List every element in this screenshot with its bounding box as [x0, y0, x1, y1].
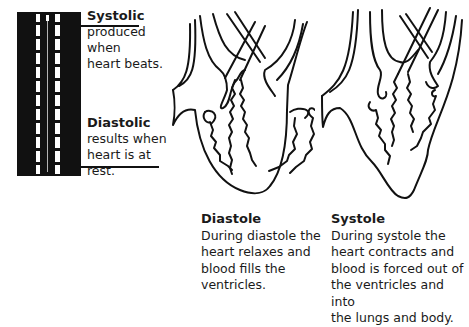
diastole-title: Diastole: [201, 211, 326, 228]
systole-line-5: the lungs and body.: [331, 310, 469, 327]
systolic-line-1: produced when: [87, 24, 172, 56]
systole-title: Systole: [331, 211, 469, 228]
systole-line-1: During systole the: [331, 228, 469, 245]
systole-line-2: heart contracts and: [331, 244, 469, 261]
systole-line-4: the ventricles and into: [331, 277, 469, 310]
systole-caption: Systole During systole the heart contrac…: [331, 211, 469, 327]
systolic-line-2: heart beats.: [87, 56, 172, 72]
diastolic-line-1: results when: [87, 131, 172, 147]
systole-line-3: blood is forced out of: [331, 261, 469, 278]
diastolic-title: Diastolic: [87, 115, 172, 131]
systolic-label: Systolic produced when heart beats.: [87, 8, 172, 72]
diastole-caption: Diastole During diastole the heart relax…: [201, 211, 326, 294]
diastole-line-4: ventricles.: [201, 277, 326, 294]
diastole-line-2: heart relaxes and: [201, 244, 326, 261]
pressure-gauge-icon: [17, 12, 81, 176]
diastolic-line-2: heart is at rest.: [87, 147, 172, 179]
heart-systole-icon: [310, 0, 469, 210]
diastole-line-3: blood fills the: [201, 261, 326, 278]
heart-diastole-icon: [165, 0, 315, 205]
diastolic-label: Diastolic results when heart is at rest.: [87, 115, 172, 179]
diastole-line-1: During diastole the: [201, 228, 326, 245]
systolic-title: Systolic: [87, 8, 172, 24]
